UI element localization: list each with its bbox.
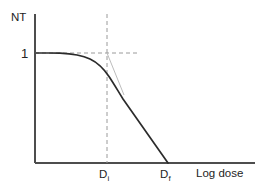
y-tick-label-one: 1 — [21, 47, 28, 60]
x-tick-di-base: D — [99, 168, 107, 180]
x-tick-label-di: Di — [99, 169, 109, 181]
nt-survival-curve — [36, 53, 168, 163]
x-tick-label-df: Df — [160, 169, 171, 181]
chart-canvas — [0, 0, 262, 192]
x-tick-df-subscript: f — [169, 174, 171, 183]
figure-container: NT 1 Di Df Log dose — [0, 0, 262, 192]
x-tick-df-base: D — [160, 168, 168, 180]
x-axis-label: Log dose — [196, 168, 243, 180]
y-axis-label: NT — [11, 12, 26, 24]
tangent-line — [107, 53, 124, 95]
